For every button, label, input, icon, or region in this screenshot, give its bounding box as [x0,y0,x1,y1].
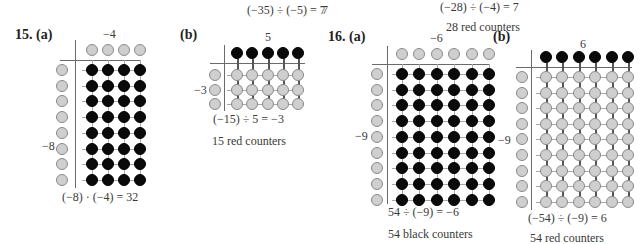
grid-counter [483,115,495,127]
grid-counter [589,165,601,177]
left-counter [516,180,528,192]
grid-counter [431,131,443,143]
grid-counter [556,118,568,130]
top-counter [448,48,460,60]
grid-counter [396,84,408,96]
prev-equation-a: (−35) ÷ (−5) = 7 [247,4,326,16]
grid-counter [573,149,585,161]
grid-counter [134,158,146,170]
grid-counter [262,98,274,110]
grid-counter [606,165,618,177]
grid-counter [540,196,552,208]
grid-counter [589,180,601,192]
grid-counter [466,131,478,143]
grid-counter [466,99,478,111]
grid-counter [589,118,601,130]
grid-counter [262,84,274,96]
top-counter [231,47,243,59]
grid-counter [118,158,130,170]
grid-counter [413,178,425,190]
grid-counter [118,174,130,186]
grid-counter [589,149,601,161]
left-counter [371,194,383,206]
vertical-axis-line [224,45,225,111]
grid-counter [573,87,585,99]
grid-counter [413,162,425,174]
top-counter [262,47,274,59]
grid-counter [118,111,130,123]
grid-counter [556,102,568,114]
grid-counter [540,71,552,83]
stray-digit: 7 [322,4,328,16]
equation: 54 ÷ (−9) = −6 [388,206,459,218]
grid-counter [134,80,146,92]
problem-label: 15. (a) [15,28,52,42]
grid-counter [573,165,585,177]
top-counter [246,47,258,59]
top-counter [622,51,634,63]
top-counter [556,51,568,63]
grid-counter [118,127,130,139]
left-counter [371,162,383,174]
grid-counter [413,99,425,111]
grid-counter [606,180,618,192]
grid-counter [622,149,634,161]
grid-counter [483,99,495,111]
grid-counter [431,147,443,159]
grid-counter [431,115,443,127]
grid-counter [413,131,425,143]
grid-counter [86,80,98,92]
top-counter [413,48,425,60]
top-counter [396,48,408,60]
grid-counter [118,143,130,155]
left-counter [56,64,68,76]
grid-counter [102,111,114,123]
grid-counter [413,68,425,80]
grid-counter [556,165,568,177]
grid-counter [448,68,460,80]
grid-counter [134,127,146,139]
grid-counter [573,180,585,192]
grid-counter [134,111,146,123]
grid-counter [431,178,443,190]
left-counter [56,143,68,155]
grid-counter [134,95,146,107]
grid-counter [466,194,478,206]
grid-counter [246,69,258,81]
grid-counter [622,87,634,99]
axis-left-label: −8 [42,140,55,152]
grid-counter [466,115,478,127]
vertical-axis-line [387,46,388,204]
grid-counter [102,64,114,76]
grid-counter [118,95,130,107]
grid-counter [606,118,618,130]
top-counter [86,44,98,56]
grid-counter [448,84,460,96]
equation: (−15) ÷ 5 = −3 [213,113,284,125]
grid-counter [86,143,98,155]
grid-counter [396,115,408,127]
axis-top-label: 6 [580,38,586,50]
grid-counter [413,115,425,127]
grid-counter [589,196,601,208]
grid-counter [556,71,568,83]
grid-counter [102,95,114,107]
grid-counter [556,133,568,145]
grid-counter [134,143,146,155]
grid-counter [431,84,443,96]
grid-counter [134,174,146,186]
grid-counter [396,99,408,111]
grid-counter [466,178,478,190]
left-counter [371,99,383,111]
grid-counter [483,147,495,159]
grid-counter [573,133,585,145]
grid-counter [622,165,634,177]
axis-left-label: −9 [355,130,368,142]
grid-counter [86,64,98,76]
left-counter [209,69,221,81]
top-counter [292,47,304,59]
axis-top-label: −4 [103,28,116,40]
grid-counter [448,131,460,143]
grid-counter [540,102,552,114]
grid-counter [86,174,98,186]
